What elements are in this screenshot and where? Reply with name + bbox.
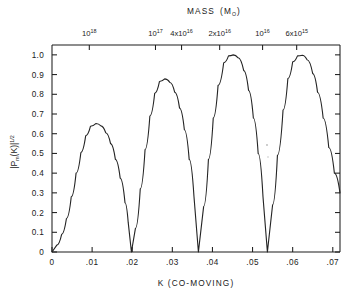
x-tick-label: .02 (126, 258, 139, 267)
y-tick-labels: 00.10.20.30.40.50.60.70.80.91.0 (32, 51, 44, 257)
x-tick-label: .01 (86, 258, 99, 267)
y-tick-label: 0.9 (32, 71, 44, 80)
power-spectrum-curve (52, 55, 340, 252)
y-tick-label: 0.8 (32, 90, 44, 99)
x-axis-title: K (CO-MOVING) (158, 278, 235, 288)
top-tick-label: 2x1016 (208, 28, 230, 38)
x-tick-label: .04 (206, 258, 219, 267)
y-tick-label: 0.6 (32, 130, 44, 139)
scan-speck (267, 156, 268, 157)
y-tick-marks-right (335, 55, 340, 252)
y-tick-label: 0.4 (32, 169, 44, 178)
figure-container: 00.10.20.30.40.50.60.70.80.91.0 0.01.02.… (0, 0, 364, 292)
top-tick-label: 6x1015 (285, 28, 307, 38)
y-tick-label: 0.3 (32, 189, 44, 198)
top-tick-label: 4x1016 (170, 28, 192, 38)
x-tick-label: .06 (286, 258, 299, 267)
x-tick-labels: 0.01.02.03.04.05.06.07 (50, 258, 340, 267)
y-tick-label: 0.2 (32, 209, 44, 218)
y-tick-label: 0.1 (32, 228, 44, 237)
x-tick-label: 0 (50, 258, 55, 267)
y-axis-title: |Pm(K)|1/2 (9, 135, 21, 169)
x-tick-marks (52, 247, 333, 252)
y-tick-label: 1.0 (32, 51, 44, 60)
y-tick-label: 0.5 (32, 149, 44, 158)
svg-text:|Pm(K)|1/2: |Pm(K)|1/2 (9, 135, 21, 169)
plot-canvas: 00.10.20.30.40.50.60.70.80.91.0 0.01.02.… (0, 0, 364, 292)
scan-speck (266, 144, 268, 146)
top-tick-labels: 101810174x10162x101610166x1015 (82, 28, 308, 38)
top-tick-label: 1017 (148, 28, 162, 38)
x-tick-label: .05 (246, 258, 259, 267)
x-tick-label: .03 (166, 258, 179, 267)
y-tick-label: 0.7 (32, 110, 44, 119)
top-tick-label: 1018 (82, 28, 96, 38)
y-tick-marks (52, 55, 57, 252)
x-tick-label: .07 (326, 258, 339, 267)
top-tick-marks (89, 45, 296, 50)
top-axis-title: MASS(MO) (187, 6, 241, 17)
y-tick-label: 0 (39, 248, 44, 257)
top-tick-label: 1016 (255, 28, 269, 38)
